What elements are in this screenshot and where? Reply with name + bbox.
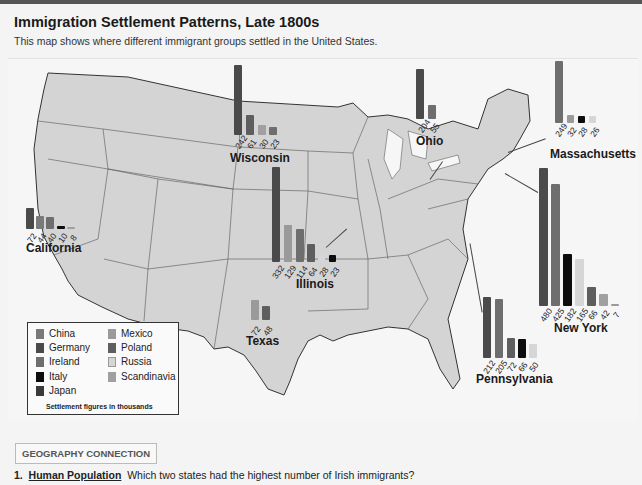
page-subtitle: This map shows where different immigrant… [14, 35, 377, 47]
legend-item-scandinavia: Scandinavia [108, 371, 175, 382]
state-label-newyork: New York [554, 321, 608, 335]
state-label-illinois: Illinois [296, 277, 334, 291]
legend-item-italy: Italy [36, 371, 67, 382]
state-label-massachusetts: Massachusetts [550, 147, 636, 161]
legend-item-germany: Germany [36, 342, 90, 353]
legend-item-mexico: Mexico [108, 328, 153, 339]
page-title: Immigration Settlement Patterns, Late 18… [14, 14, 319, 30]
section-label: GEOGRAPHY CONNECTION [15, 443, 157, 464]
map-legend: China Germany Ireland Italy Japan Mexico… [27, 322, 179, 415]
legend-item-russia: Russia [108, 356, 152, 367]
legend-item-ireland: Ireland [36, 356, 80, 367]
legend-note: Settlement figures in thousands [46, 403, 153, 410]
state-label-wisconsin: Wisconsin [230, 151, 290, 165]
question-1: 1. Human Population Which two states had… [14, 469, 414, 481]
top-bar [0, 0, 642, 4]
legend-item-china: China [36, 328, 75, 339]
state-label-texas: Texas [246, 334, 279, 348]
state-label-california: California [26, 241, 81, 255]
state-label-ohio: Ohio [416, 134, 443, 148]
state-label-pennsylvania: Pennsylvania [476, 372, 553, 386]
topic-link-human-population[interactable]: Human Population [29, 469, 122, 481]
legend-item-poland: Poland [108, 342, 152, 353]
legend-item-japan: Japan [36, 385, 76, 396]
